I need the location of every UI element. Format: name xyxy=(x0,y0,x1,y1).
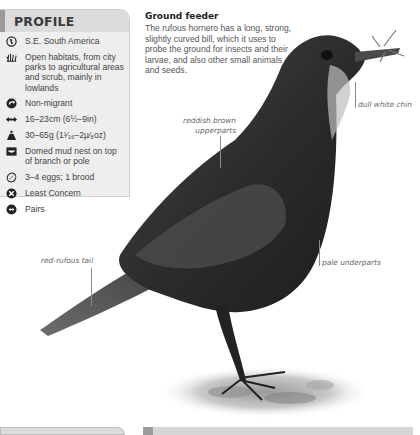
profile-item-range: S.E. South America xyxy=(0,36,129,46)
bird-beak xyxy=(355,48,400,62)
footer-panel-right xyxy=(143,427,413,435)
upperparts-leader-line xyxy=(220,136,221,168)
profile-panel: PROFILE S.E. South America Open habitats… xyxy=(0,9,130,197)
annotation-chin: dull white chin xyxy=(358,100,412,109)
profile-item-nest: Domed mud nest on top of branch or pole xyxy=(0,146,129,167)
annotation-underparts: pale underparts xyxy=(322,258,381,267)
social-pairs-icon xyxy=(5,204,17,215)
profile-item-weight: 30–65g (1¹⁄₁₆–2µ⁄₈oz) xyxy=(0,130,129,140)
profile-item-text: Non-migrant xyxy=(25,98,72,108)
feature-body: The rufous hornero has a long, strong, s… xyxy=(145,23,293,76)
profile-item-status: Least Concern xyxy=(0,188,129,198)
profile-title: PROFILE xyxy=(14,14,75,29)
profile-item-text: Pairs xyxy=(25,204,45,214)
globe-icon xyxy=(5,36,17,47)
conservation-status-icon xyxy=(5,188,17,199)
tail-leader-line xyxy=(91,268,92,306)
bird-body xyxy=(119,35,365,312)
bird-eye xyxy=(321,50,333,60)
length-arrows-icon xyxy=(5,114,17,125)
migration-arrow-icon xyxy=(5,98,17,109)
profile-item-length: 16–23cm (6½–9in) xyxy=(0,114,129,124)
annotation-upperparts-line2: upperparts xyxy=(170,126,236,135)
profile-item-text: S.E. South America xyxy=(25,36,100,46)
profile-accent-bar xyxy=(0,10,5,32)
profile-item-social: Pairs xyxy=(0,204,129,214)
profile-item-text: Domed mud nest on top of branch or pole xyxy=(25,146,117,166)
profile-item-text: 16–23cm (6½–9in) xyxy=(25,114,97,124)
profile-item-text: 3–4 eggs; 1 brood xyxy=(25,172,94,182)
nest-icon xyxy=(5,146,17,157)
footer-accent-bar xyxy=(143,427,153,435)
chin-leader-line xyxy=(355,82,356,108)
egg-icon xyxy=(5,172,17,183)
feature-heading: Ground feeder xyxy=(145,11,219,21)
footer-panel-left xyxy=(0,427,125,435)
annotation-tail: red-rufous tail xyxy=(41,256,93,265)
profile-item-habitat: Open habitats, from city parks to agricu… xyxy=(0,52,129,93)
grass-habitat-icon xyxy=(5,52,17,63)
profile-list: S.E. South America Open habitats, from c… xyxy=(0,32,129,214)
annotation-upperparts-line1: reddish brown xyxy=(170,116,236,125)
underparts-leader-line xyxy=(319,240,320,266)
profile-item-text: Open habitats, from city parks to agricu… xyxy=(25,52,124,93)
profile-item-text: 30–65g (1¹⁄₁₆–2µ⁄₈oz) xyxy=(25,130,106,140)
weight-icon xyxy=(5,130,17,141)
profile-item-text: Least Concern xyxy=(25,188,81,198)
profile-header: PROFILE xyxy=(0,10,129,32)
profile-item-eggs: 3–4 eggs; 1 brood xyxy=(0,172,129,182)
profile-item-migration: Non-migrant xyxy=(0,98,129,108)
